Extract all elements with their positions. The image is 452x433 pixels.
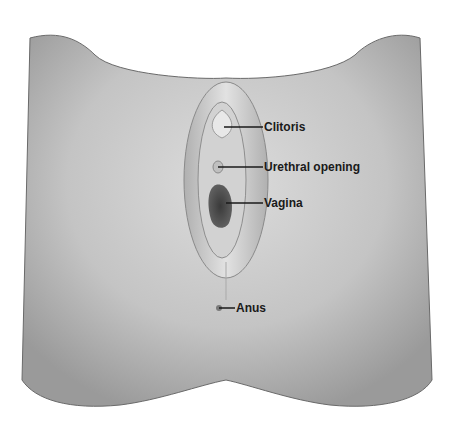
illustration	[0, 0, 452, 433]
anus-label: Anus	[236, 301, 266, 315]
urethral-opening-label: Urethral opening	[264, 160, 360, 174]
anatomy-diagram: Clitoris Urethral opening Vagina Anus	[0, 0, 452, 433]
clitoris-label: Clitoris	[264, 120, 305, 134]
vagina-label: Vagina	[264, 196, 303, 210]
